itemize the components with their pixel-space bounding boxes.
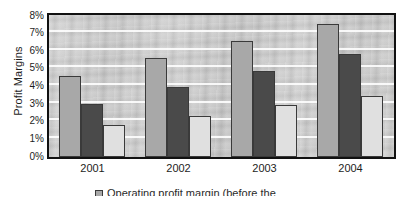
bar — [339, 54, 361, 157]
y-tick-label: 1% — [18, 134, 44, 144]
x-tick-label: 2004 — [338, 161, 362, 175]
bars-layer — [49, 15, 394, 157]
bar — [275, 105, 297, 157]
bar — [361, 96, 383, 157]
y-tick-label: 0% — [18, 152, 44, 162]
bar — [317, 24, 339, 157]
y-tick-label: 6% — [18, 46, 44, 56]
y-tick-label: 3% — [18, 99, 44, 109]
bar — [145, 58, 167, 157]
bar — [189, 116, 211, 157]
bar — [167, 87, 189, 157]
x-tick-label: 2003 — [252, 161, 276, 175]
y-tick-label: 4% — [18, 81, 44, 91]
bar — [231, 41, 253, 157]
legend-entry: Operating profit margin (before the — [95, 188, 276, 196]
profit-margins-bar-chart: Profit Margins 0%1%2%3%4%5%6%7%8% 200120… — [0, 0, 405, 196]
legend-label: Operating profit margin (before the — [107, 188, 276, 196]
y-tick-label: 7% — [18, 28, 44, 38]
bar — [81, 104, 103, 157]
bar — [103, 125, 125, 157]
x-axis-tick-labels: 2001200220032004 — [47, 161, 396, 177]
chart-legend: Operating profit margin (before the — [47, 188, 396, 196]
bar — [253, 71, 275, 157]
y-tick-label: 8% — [18, 11, 44, 21]
y-tick-label: 5% — [18, 63, 44, 73]
x-tick-label: 2001 — [80, 161, 104, 175]
bar — [59, 76, 81, 157]
legend-swatch-icon — [95, 190, 103, 197]
plot-area — [47, 13, 396, 159]
y-tick-label: 2% — [18, 116, 44, 126]
x-tick-label: 2002 — [166, 161, 190, 175]
y-axis-tick-labels: 0%1%2%3%4%5%6%7%8% — [18, 14, 44, 158]
